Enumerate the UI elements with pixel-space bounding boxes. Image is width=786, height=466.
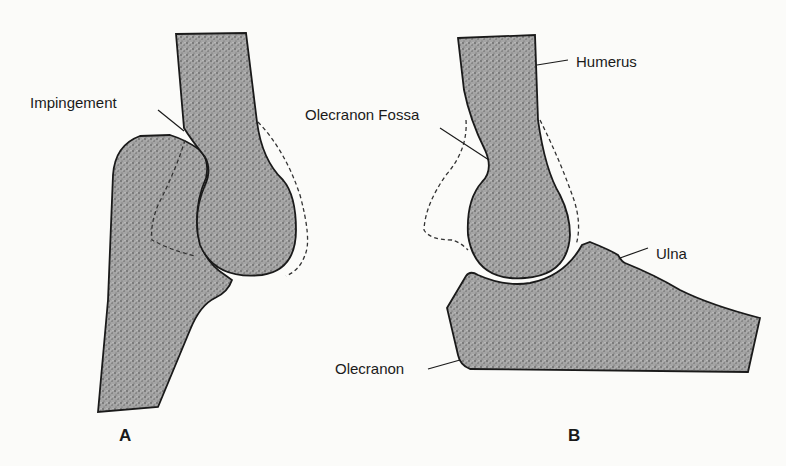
label-olecranon: Olecranon: [335, 360, 404, 377]
label-olecranon-fossa: Olecranon Fossa: [305, 106, 420, 123]
elbow-diagram: Impingement A Humerus Olecranon Fossa Ul…: [0, 0, 786, 466]
leader-ulna: [620, 248, 648, 258]
label-ulna: Ulna: [656, 245, 688, 262]
panel-label-a: A: [119, 426, 131, 445]
panel-a: Impingement A: [30, 33, 308, 445]
label-impingement: Impingement: [30, 94, 118, 111]
label-humerus: Humerus: [576, 53, 637, 70]
panel-b: Humerus Olecranon Fossa Ulna Olecranon B: [305, 35, 760, 445]
humerus-bone-b: [458, 35, 570, 278]
leader-olecranon: [428, 360, 460, 369]
ghost-outline-b: [424, 120, 468, 250]
leader-impingement: [158, 110, 184, 131]
panel-label-b: B: [568, 426, 580, 445]
leader-humerus: [537, 60, 568, 65]
